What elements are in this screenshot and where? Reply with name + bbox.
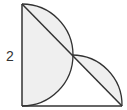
geometry-diagram: 2 [0, 0, 127, 110]
left-semicircle-shaded [22, 4, 73, 106]
side-length-label: 2 [6, 48, 14, 64]
